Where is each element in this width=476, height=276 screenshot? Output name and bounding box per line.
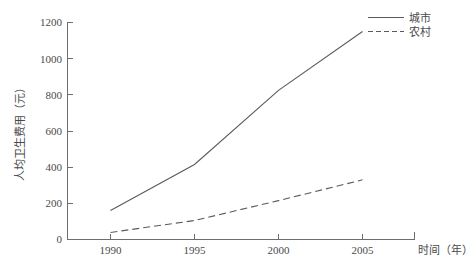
x-tick-label-2000: 2000 bbox=[268, 244, 291, 256]
x-tick-label-1995: 1995 bbox=[184, 244, 207, 256]
y-tick-label-200: 200 bbox=[46, 197, 63, 209]
series-line-rural bbox=[111, 180, 363, 233]
series-line-urban bbox=[111, 32, 363, 211]
y-tick-label-800: 800 bbox=[46, 89, 63, 101]
y-tick-label-400: 400 bbox=[46, 161, 63, 173]
line-chart: 1200 1000 800 600 400 200 0 1990 1995 20… bbox=[0, 0, 476, 276]
x-tick-label-2005: 2005 bbox=[352, 244, 375, 256]
x-axis-title: 时间（年） bbox=[418, 243, 473, 256]
chart-legend: 城市 农村 bbox=[368, 11, 431, 38]
y-tick-label-600: 600 bbox=[46, 125, 63, 137]
legend-label-rural: 农村 bbox=[409, 25, 431, 38]
x-axis-ticks bbox=[111, 232, 415, 240]
y-tick-label-1000: 1000 bbox=[40, 53, 63, 65]
x-tick-label-1990: 1990 bbox=[100, 244, 123, 256]
legend-label-urban: 城市 bbox=[409, 11, 431, 24]
chart-container: 1200 1000 800 600 400 200 0 1990 1995 20… bbox=[0, 0, 476, 276]
y-tick-label-1200: 1200 bbox=[40, 16, 63, 28]
y-axis-title: 人均卫生费用（元） bbox=[13, 82, 26, 181]
y-tick-label-0: 0 bbox=[57, 233, 63, 245]
y-axis-ticks bbox=[68, 23, 74, 204]
